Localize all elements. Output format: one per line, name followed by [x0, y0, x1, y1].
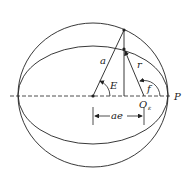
- anomaly-diagram: a r E f O ε P ae: [0, 0, 190, 182]
- label-focus-subscript: ε: [148, 104, 151, 111]
- orbit-point: [122, 47, 125, 50]
- label-focus: O: [139, 99, 147, 110]
- label-r: r: [137, 59, 143, 70]
- label-P: P: [173, 91, 181, 102]
- label-f: f: [146, 83, 153, 94]
- label-a: a: [100, 55, 106, 66]
- semi-major-line: [93, 30, 124, 96]
- angle-arc-E: [100, 81, 110, 96]
- label-E: E: [109, 80, 118, 91]
- label-ae: ae: [111, 110, 123, 121]
